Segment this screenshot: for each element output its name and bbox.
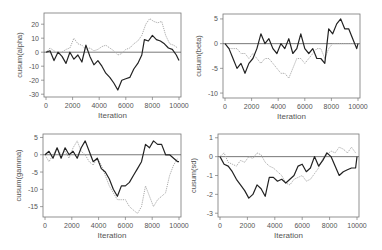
series-line-chain-1 bbox=[46, 35, 179, 90]
y-tick-label: -15 bbox=[28, 203, 38, 210]
y-tick-label: 0 bbox=[209, 153, 213, 160]
y-tick-label: -5 bbox=[212, 65, 218, 72]
y-tick-label: -2 bbox=[207, 191, 213, 198]
x-axis-label: Iteration bbox=[98, 111, 127, 120]
x-tick-label: 2000 bbox=[64, 222, 80, 229]
x-tick-label: 6000 bbox=[297, 103, 313, 110]
y-tick-label: 0 bbox=[214, 40, 218, 47]
x-tick-label: 2000 bbox=[244, 103, 260, 110]
y-tick-label: 10 bbox=[31, 35, 39, 42]
x-tick-label: 0 bbox=[223, 103, 227, 110]
series-line-chain-1 bbox=[45, 141, 179, 196]
plot-frame bbox=[44, 13, 181, 97]
y-tick-label: -20 bbox=[29, 77, 39, 84]
y-tick-label: -1 bbox=[207, 172, 213, 179]
y-tick-label: -10 bbox=[29, 63, 39, 70]
x-tick-label: 10000 bbox=[169, 222, 189, 229]
y-tick-label: -10 bbox=[28, 186, 38, 193]
x-tick-label: 6000 bbox=[118, 102, 134, 109]
x-tick-label: 6000 bbox=[118, 222, 134, 229]
x-tick-label: 8000 bbox=[145, 102, 161, 109]
y-axis-label: cusum(beta) bbox=[194, 35, 203, 77]
y-axis-label: cusum(sd) bbox=[191, 157, 198, 193]
x-tick-label: 8000 bbox=[324, 103, 340, 110]
panel-beta: 0200040006000800010000-10-505Iterationcu… bbox=[191, 0, 382, 125]
y-tick-label: -5 bbox=[32, 169, 38, 176]
x-axis-label: Iteration bbox=[277, 112, 306, 121]
series-line-chain-1 bbox=[225, 19, 358, 73]
x-tick-label: 4000 bbox=[270, 103, 286, 110]
x-tick-label: 8000 bbox=[144, 222, 160, 229]
y-tick-label: 20 bbox=[31, 21, 39, 28]
x-tick-label: 10000 bbox=[347, 222, 367, 229]
y-axis-label: cusum(alpha) bbox=[15, 32, 24, 78]
y-tick-label: 5 bbox=[214, 15, 218, 22]
x-tick-label: 6000 bbox=[294, 222, 310, 229]
x-axis-label: Iteration bbox=[274, 231, 303, 240]
x-tick-label: 2000 bbox=[65, 102, 81, 109]
series-line-chain-2 bbox=[45, 141, 178, 214]
x-tick-label: 4000 bbox=[91, 222, 107, 229]
plot-frame bbox=[223, 14, 360, 98]
x-tick-label: 2000 bbox=[240, 222, 256, 229]
x-tick-label: 10000 bbox=[348, 103, 368, 110]
x-tick-label: 4000 bbox=[267, 222, 283, 229]
x-axis-label: Iteration bbox=[98, 231, 127, 240]
x-tick-label: 0 bbox=[43, 222, 47, 229]
y-tick-label: 0 bbox=[34, 151, 38, 158]
plot-frame bbox=[43, 134, 181, 217]
y-tick-label: -30 bbox=[29, 91, 39, 98]
x-tick-label: 8000 bbox=[322, 222, 338, 229]
x-tick-label: 10000 bbox=[169, 102, 189, 109]
panel-sd: 0200040006000800010000-3-2-101Iterationc… bbox=[191, 125, 382, 250]
series-line-chain-2 bbox=[46, 19, 178, 55]
y-tick-label: -3 bbox=[207, 210, 213, 217]
y-tick-label: 1 bbox=[209, 134, 213, 141]
y-axis-label: cusum(gamma) bbox=[14, 149, 23, 202]
panel-gamma: 0200040006000800010000-15-10-505Iteratio… bbox=[0, 125, 191, 250]
y-tick-label: -10 bbox=[208, 90, 218, 97]
plot-frame bbox=[218, 134, 359, 217]
series-line-chain-1 bbox=[220, 153, 357, 198]
panel-alpha: 0200040006000800010000-30-20-1001020Iter… bbox=[0, 0, 191, 125]
x-tick-label: 0 bbox=[44, 102, 48, 109]
x-tick-label: 4000 bbox=[91, 102, 107, 109]
y-tick-label: 5 bbox=[34, 134, 38, 141]
y-tick-label: 0 bbox=[35, 49, 39, 56]
x-tick-label: 0 bbox=[218, 222, 222, 229]
